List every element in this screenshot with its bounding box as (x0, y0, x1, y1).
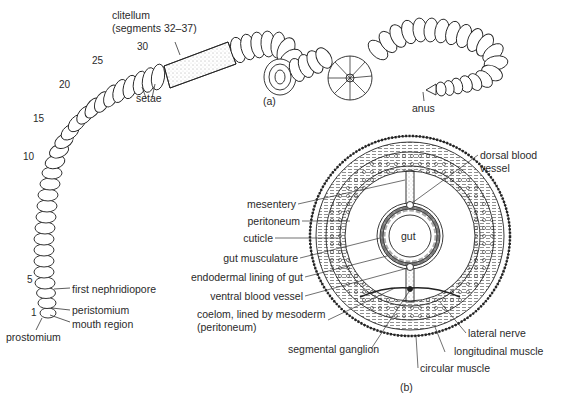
label-clitellum: clitellum (112, 9, 150, 21)
label-peritoneum: peritoneum (180, 215, 300, 227)
clitellum-region (164, 42, 236, 88)
label-dorsal-blood-vessel-2: vessel (480, 162, 510, 174)
caption-a: (a) (263, 95, 276, 107)
label-coelom: coelom, lined by mesoderm (197, 308, 325, 320)
segment-number-30: 30 (137, 41, 148, 52)
segment-number-5: 5 (27, 274, 33, 285)
label-setae: setae (136, 92, 162, 104)
label-circular-muscle: circular muscle (420, 362, 490, 374)
label-prostomium: prostomium (6, 331, 61, 343)
label-ventral-blood-vessel: ventral blood vessel (180, 290, 303, 302)
label-peristomium: peristomium (72, 304, 129, 316)
label-lateral-nerve: lateral nerve (468, 327, 526, 339)
label-clitellum-segments: (segments 32–37) (112, 22, 197, 34)
segment-number-20: 20 (59, 79, 70, 90)
label-segmental-ganglion: segmental ganglion (288, 343, 379, 355)
label-gut-musculature: gut musculature (180, 252, 298, 264)
label-gut: gut (401, 230, 416, 242)
label-cuticle: cuticle (180, 232, 273, 244)
segment-number-10: 10 (23, 151, 34, 162)
segment-number-25: 25 (92, 55, 103, 66)
label-mesentery: mesentery (180, 198, 296, 210)
label-anus: anus (412, 102, 435, 114)
earthworm-anatomy-figure: clitellum (segments 32–37) setae (a) anu… (0, 0, 567, 398)
label-longitudinal-muscle: longitudinal muscle (454, 345, 543, 357)
segment-number-15: 15 (33, 113, 44, 124)
label-dorsal-blood-vessel: dorsal blood (480, 149, 537, 161)
label-mouth-region: mouth region (72, 318, 133, 330)
label-endodermal-lining: endodermal lining of gut (180, 271, 303, 283)
label-coelom-2: (peritoneum) (197, 321, 257, 333)
caption-b: (b) (400, 381, 413, 393)
worm-coil-2 (328, 56, 372, 100)
worm-posterior-segments (365, 17, 509, 96)
label-first-nephridiopore: first nephridiopore (72, 283, 156, 295)
segment-number-1: 1 (31, 307, 37, 318)
